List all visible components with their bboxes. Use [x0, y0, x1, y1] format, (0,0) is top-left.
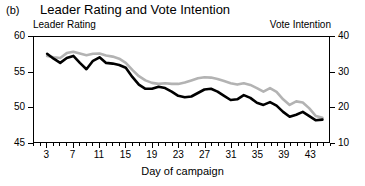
x-tick-label-23: 23: [168, 149, 188, 160]
x-tickmark-minor: [304, 143, 305, 146]
left-axis-header: Leader Rating: [33, 19, 96, 30]
chart-title: Leader Rating and Vote Intention: [40, 2, 230, 17]
left-tickmark: [28, 36, 33, 37]
x-tickmark-minor: [112, 143, 113, 146]
x-axis-title: Day of campaign: [0, 165, 365, 177]
x-tick-label-35: 35: [247, 149, 267, 160]
x-tickmark-minor: [277, 143, 278, 146]
x-tickmark-minor: [165, 143, 166, 146]
x-tickmark-minor: [145, 143, 146, 146]
x-tick-label-43: 43: [300, 149, 320, 160]
x-tickmark-11: [99, 143, 100, 148]
x-tickmark-minor: [317, 143, 318, 146]
x-tickmark-minor: [132, 143, 133, 146]
panel-label: (b): [6, 4, 19, 16]
x-tickmark-minor: [211, 143, 212, 146]
x-tick-label-27: 27: [195, 149, 215, 160]
left-tick-50: 50: [1, 102, 25, 112]
x-tick-label-19: 19: [142, 149, 162, 160]
x-tickmark-minor: [271, 143, 272, 146]
left-tickmark: [28, 107, 33, 108]
right-tickmark: [330, 72, 335, 73]
x-tickmark-minor: [92, 143, 93, 146]
x-tickmark-27: [205, 143, 206, 148]
x-tickmark-minor: [323, 143, 324, 146]
right-tick-10: 10: [338, 138, 362, 148]
x-tickmark-31: [231, 143, 232, 148]
x-tickmark-minor: [158, 143, 159, 146]
right-tickmark: [330, 143, 335, 144]
x-tickmark-minor: [86, 143, 87, 146]
x-tickmark-minor: [297, 143, 298, 146]
x-tickmark-minor: [191, 143, 192, 146]
left-tick-45: 45: [1, 138, 25, 148]
left-tickmark: [28, 72, 33, 73]
x-tickmark-minor: [172, 143, 173, 146]
x-tickmark-minor: [218, 143, 219, 146]
left-tick-55: 55: [1, 67, 25, 77]
x-tickmark-minor: [290, 143, 291, 146]
x-tickmark-minor: [198, 143, 199, 146]
x-tickmark-minor: [139, 143, 140, 146]
x-tickmark-minor: [66, 143, 67, 146]
x-tickmark-minor: [224, 143, 225, 146]
x-tick-label-31: 31: [221, 149, 241, 160]
x-tickmark-39: [284, 143, 285, 148]
x-tickmark-minor: [251, 143, 252, 146]
right-tickmark: [330, 36, 335, 37]
x-tick-label-3: 3: [36, 149, 56, 160]
x-tickmark-minor: [264, 143, 265, 146]
x-tickmark-minor: [185, 143, 186, 146]
x-tickmark-minor: [53, 143, 54, 146]
right-tick-40: 40: [338, 31, 362, 41]
series-lines: [34, 37, 329, 142]
x-tickmark-minor: [40, 143, 41, 146]
series-leader-rating: [47, 54, 322, 120]
x-tickmark-minor: [79, 143, 80, 146]
series-vote-intention: [47, 52, 322, 118]
x-tickmark-minor: [33, 143, 34, 146]
plot-area: [33, 36, 330, 143]
x-tickmark-3: [46, 143, 47, 148]
x-tickmark-35: [257, 143, 258, 148]
x-tickmark-minor: [238, 143, 239, 146]
x-tickmark-19: [152, 143, 153, 148]
x-tickmark-minor: [244, 143, 245, 146]
x-tick-label-7: 7: [63, 149, 83, 160]
left-tick-60: 60: [1, 31, 25, 41]
right-tick-30: 30: [338, 67, 362, 77]
x-tickmark-minor: [59, 143, 60, 146]
x-tickmark-23: [178, 143, 179, 148]
x-tickmark-15: [125, 143, 126, 148]
x-tickmark-7: [73, 143, 74, 148]
x-tick-label-11: 11: [89, 149, 109, 160]
right-tick-20: 20: [338, 102, 362, 112]
x-tickmark-minor: [119, 143, 120, 146]
x-tick-label-39: 39: [274, 149, 294, 160]
x-tickmark-43: [310, 143, 311, 148]
x-tickmark-minor: [106, 143, 107, 146]
right-tickmark: [330, 107, 335, 108]
right-axis-header: Vote Intention: [270, 19, 331, 30]
chart-figure: (b) Leader Rating and Vote Intention Lea…: [0, 0, 365, 186]
x-tick-label-15: 15: [115, 149, 135, 160]
left-tickmark: [28, 143, 33, 144]
